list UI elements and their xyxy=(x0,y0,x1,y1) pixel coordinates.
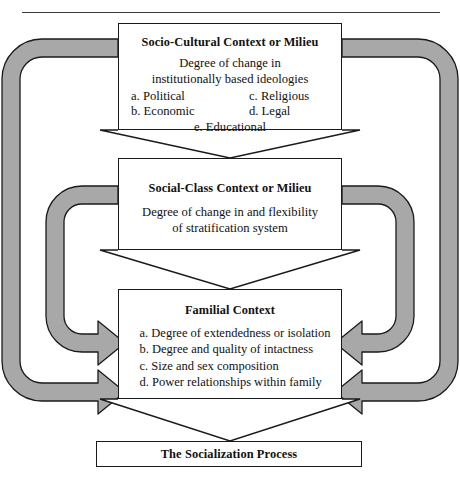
socio-item-b: b. Economic xyxy=(131,104,211,119)
familial-title: Familial Context xyxy=(185,303,275,317)
socio-subtitle-line1: Degree of change in xyxy=(179,56,281,71)
node-socio-cultural-context[interactable]: Socio-Cultural Context or Milieu Degree … xyxy=(118,23,342,130)
socio-title: Socio-Cultural Context or Milieu xyxy=(142,35,319,49)
node-social-class-context[interactable]: Social-Class Context or Milieu Degree of… xyxy=(118,158,342,250)
familial-item-d: d. Power relationships within family xyxy=(140,374,331,390)
familial-item-c: c. Size and sex composition xyxy=(140,358,331,374)
socio-item-a: a. Political xyxy=(131,89,211,104)
socialization-title: The Socialization Process xyxy=(161,447,298,461)
node-familial-context[interactable]: Familial Context a. Degree of extendedne… xyxy=(118,289,342,399)
social-class-title: Social-Class Context or Milieu xyxy=(149,181,312,195)
node-socialization-process[interactable]: The Socialization Process xyxy=(96,441,362,467)
socio-item-e: e. Educational xyxy=(119,120,341,135)
social-class-subtitle-line2: of stratification system xyxy=(172,221,287,236)
social-class-subtitle-line1: Degree of change in and flexibility xyxy=(142,205,318,220)
node-layer: Socio-Cultural Context or Milieu Degree … xyxy=(0,0,460,496)
socio-item-row-1: a. Political c. Religious xyxy=(119,89,341,104)
socio-item-d: d. Legal xyxy=(249,104,329,119)
socio-item-c: c. Religious xyxy=(249,89,329,104)
familial-item-list: a. Degree of extendedness or isolation b… xyxy=(140,325,331,390)
socio-subtitle-line2: institutionally based ideologies xyxy=(152,72,309,87)
diagram-root: .band{fill:#a8a8a8;stroke:#1a1a1a;stroke… xyxy=(0,0,460,496)
familial-item-a: a. Degree of extendedness or isolation xyxy=(140,325,331,341)
socio-item-grid: a. Political c. Religious b. Economic d.… xyxy=(119,89,341,135)
socio-item-row-2: b. Economic d. Legal xyxy=(119,104,341,119)
familial-item-b: b. Degree and quality of intactness xyxy=(140,341,331,357)
